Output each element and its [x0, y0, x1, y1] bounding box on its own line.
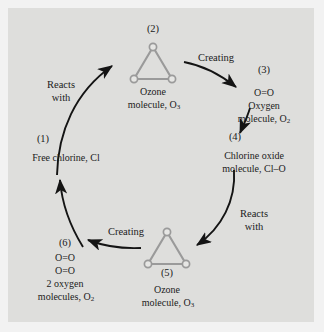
stage-3-number: (3) — [244, 64, 284, 76]
stage-3-line1: O=O — [242, 87, 286, 99]
stage-6-line4-text: molecules, O — [38, 291, 91, 302]
stage-3-line3-text: molecule, O — [238, 113, 287, 124]
stage-6-line2: O=O — [45, 265, 85, 277]
transition-reacts-bottom-line1: Reacts — [228, 208, 280, 220]
transition-reacts-top-line1: Reacts — [35, 79, 87, 91]
stage-1-line1: Free chlorine, Cl — [14, 152, 118, 164]
arrow-stage2-to-stage3 — [184, 62, 236, 87]
arrow-stage5-to-stage6 — [88, 240, 141, 248]
stage-3-line2: Oxygen — [238, 100, 290, 112]
stage-5-line2-text: molecule, O — [142, 297, 191, 308]
stage-6-line4: molecules, O2 — [22, 291, 110, 303]
stage-6-subscript: 2 — [91, 295, 95, 303]
stage-5-number: (5) — [147, 267, 187, 279]
ozone-molecule-top — [130, 43, 175, 82]
stage-5-line1: Ozone — [132, 284, 202, 296]
stage-5-line2: molecule, O3 — [118, 297, 218, 309]
stage-2-line1: Ozone — [118, 86, 188, 98]
stage-2-subscript: 3 — [177, 103, 181, 111]
stage-3-subscript: 2 — [287, 117, 291, 125]
stage-2-line2-text: molecule, O — [128, 99, 177, 110]
ozone-cycle-diagram: (2) Ozone molecule, O3 Creating (3) O=O … — [0, 0, 324, 332]
stage-2-number: (2) — [133, 23, 173, 35]
stage-4-line1: Chlorine oxide — [208, 150, 300, 162]
transition-creating-bottom-label: Creating — [96, 226, 156, 238]
stage-6-line3: 2 oxygen — [33, 278, 97, 290]
stage-2-line2: molecule, O3 — [104, 99, 204, 111]
stage-3-line3: molecule, O2 — [224, 113, 304, 125]
stage-5-subscript: 3 — [191, 301, 195, 309]
stage-6-number: (6) — [45, 237, 85, 249]
stage-1-number: (1) — [23, 133, 63, 145]
transition-reacts-top-line2: with — [35, 92, 87, 104]
stage-4-line2: molecule, Cl–O — [206, 163, 302, 175]
stage-4-number: (4) — [215, 131, 255, 143]
transition-creating-top-label: Creating — [186, 52, 246, 64]
stage-6-line1: O=O — [45, 252, 85, 264]
transition-reacts-bottom-line2: with — [228, 221, 280, 233]
